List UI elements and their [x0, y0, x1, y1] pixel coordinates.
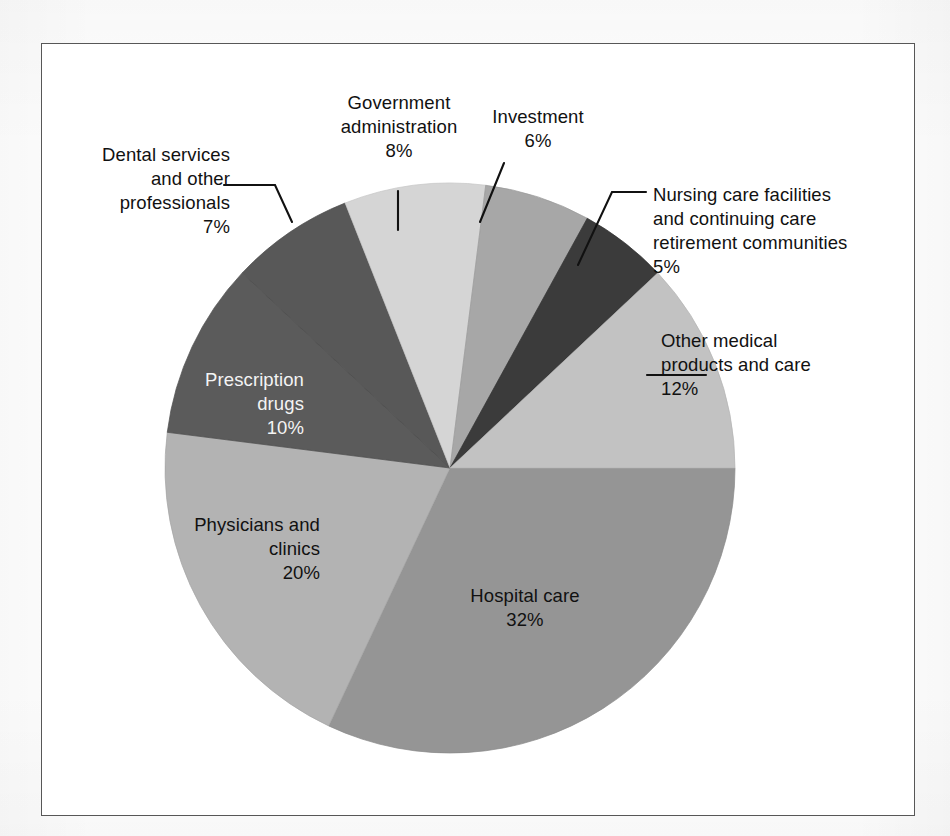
- label-investment: Investment 6%: [460, 105, 616, 153]
- pie-chart: Dental services and other professionals …: [0, 0, 950, 836]
- label-physicians-and-clinics: Physicians and clinics 20%: [168, 513, 320, 585]
- leader-line-dental-services: [224, 185, 292, 222]
- page-background: Dental services and other professionals …: [0, 0, 950, 836]
- label-nursing-care: Nursing care facilities and continuing c…: [653, 183, 893, 279]
- label-other-medical-products: Other medical products and care 12%: [661, 329, 871, 401]
- label-dental-services: Dental services and other professionals …: [62, 143, 230, 239]
- label-prescription-drugs: Prescription drugs 10%: [152, 368, 304, 440]
- pie-wedges: [165, 183, 735, 753]
- label-hospital-care: Hospital care 32%: [432, 584, 618, 632]
